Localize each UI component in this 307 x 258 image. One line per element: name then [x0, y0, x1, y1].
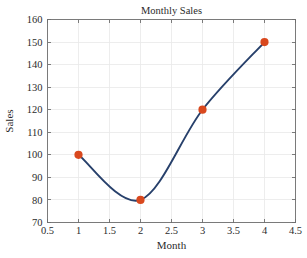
y-tick-label: 140 — [27, 59, 43, 70]
y-tick-label: 160 — [27, 14, 43, 25]
y-tick-label: 90 — [32, 172, 43, 183]
x-tick-label: 3.5 — [227, 225, 240, 236]
x-tick-label: 1 — [76, 225, 81, 236]
data-point-marker[interactable] — [260, 38, 268, 46]
x-tick-label: 2 — [138, 225, 143, 236]
x-axis-title: Month — [157, 239, 187, 251]
y-tick-label: 80 — [32, 195, 43, 206]
chart-figure: 7080901001101201301401501600.511.522.533… — [0, 0, 307, 258]
y-tick-label: 150 — [27, 37, 43, 48]
y-axis-title: Sales — [3, 109, 15, 132]
chart-title: Monthly Sales — [141, 5, 202, 16]
x-tick-label: 1.5 — [103, 225, 116, 236]
data-point-marker[interactable] — [136, 196, 144, 204]
y-tick-label: 120 — [27, 104, 43, 115]
chart-canvas: 7080901001101201301401501600.511.522.533… — [0, 0, 307, 258]
x-tick-label: 2.5 — [165, 225, 178, 236]
y-tick-label: 100 — [27, 149, 43, 160]
x-tick-label: 3 — [200, 225, 205, 236]
data-point-marker[interactable] — [74, 151, 82, 159]
x-tick-label: 4.5 — [289, 225, 302, 236]
y-tick-label: 110 — [27, 127, 42, 138]
x-tick-label: 4 — [262, 225, 268, 236]
x-tick-label: 0.5 — [41, 225, 54, 236]
y-tick-label: 130 — [27, 82, 43, 93]
data-point-marker[interactable] — [198, 106, 206, 114]
